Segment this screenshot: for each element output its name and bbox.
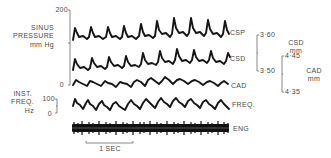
csp-trace — [73, 18, 229, 40]
csd-axis — [257, 35, 259, 71]
sinus-pressure-axis — [68, 10, 70, 85]
time-scale-bar — [86, 141, 133, 143]
csd-trace — [73, 49, 230, 70]
cad-axis — [282, 56, 284, 92]
cad-trace — [73, 77, 228, 87]
recording-traces — [0, 0, 331, 158]
freq-trace — [73, 98, 229, 110]
freq-axis — [55, 99, 57, 113]
